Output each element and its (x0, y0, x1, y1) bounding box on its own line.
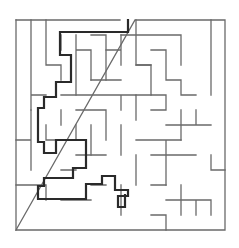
maze-wall-group (121, 20, 211, 95)
maze-svg (0, 0, 239, 248)
solution-path (38, 20, 128, 207)
maze-wall-group (61, 35, 106, 95)
maze-wall-group (136, 140, 225, 185)
maze-wall-group (16, 155, 121, 215)
maze-wall-group (61, 95, 136, 140)
maze-wall-group (136, 65, 211, 140)
maze-wall-group (151, 185, 211, 230)
maze-puzzle (0, 0, 239, 248)
